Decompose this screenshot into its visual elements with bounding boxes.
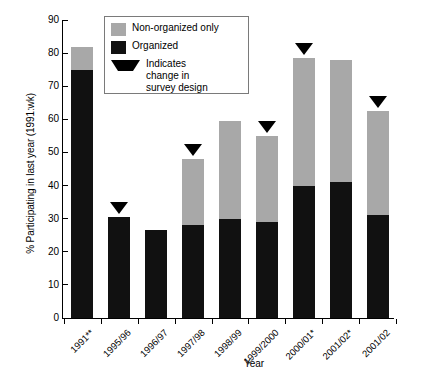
y-axis-tick: 0 [28,312,68,324]
legend-label-survey-change-line1: Indicates [146,58,208,70]
y-axis-tick-mark [63,284,68,285]
y-axis-tick-label: 90 [35,14,59,26]
y-axis-tick: 80 [28,47,68,59]
black-swatch-icon [111,41,126,54]
x-axis-tick-mark [101,319,102,324]
y-axis-tick-mark [63,185,68,186]
x-axis-tick-mark [359,319,360,324]
chart-legend: Non-organized only Organized Indicates c… [104,16,249,94]
legend-label-survey-change-line2: change in [146,70,208,82]
bar-1997/98 [182,159,204,318]
bar-segment-organized [367,215,389,318]
y-axis-tick-label: 70 [35,80,59,92]
legend-item-non-organized: Non-organized only [111,22,242,36]
survey-change-marker [258,121,276,133]
x-axis-title-text: Year [244,358,264,369]
survey-change-marker [295,43,313,55]
y-axis-tick-mark [63,119,68,120]
y-axis-tick: 40 [28,180,68,192]
bar-segment-organized [330,182,352,318]
y-axis-tick-mark [63,218,68,219]
y-axis-tick: 30 [28,213,68,225]
x-axis-tick-mark [322,319,323,324]
x-axis-tick-mark [285,319,286,324]
chart-figure: % Participating in last year (1991:wk) 0… [0,0,444,381]
y-axis-tick-label: 10 [35,279,59,291]
bar-segment-non-organized [71,47,93,70]
bar-1998/99 [219,121,241,318]
bar-1999/2000 [256,136,278,318]
bar-segment-non-organized [182,159,204,225]
bar-segment-non-organized [367,111,389,215]
y-axis-line [62,20,63,319]
survey-change-marker [184,144,202,156]
y-axis-tick-label: 30 [35,213,59,225]
y-axis-tick-label: 60 [35,113,59,125]
bar-segment-organized [293,186,315,318]
x-axis-line [62,318,394,319]
y-axis-tick: 90 [28,14,68,26]
gray-swatch-icon [111,23,126,36]
bar-segment-non-organized [330,60,352,183]
x-axis-tick-mark [212,319,213,324]
y-axis-tick-mark [63,53,68,54]
legend-label-survey-change-line3: survey design [146,82,208,94]
bar-segment-organized [182,225,204,318]
y-axis-tick: 20 [28,246,68,258]
bar-segment-organized [71,70,93,318]
survey-change-marker [369,96,387,108]
bar-2000/01* [293,58,315,318]
survey-change-marker [110,202,128,214]
bar-segment-organized [145,230,167,318]
legend-item-organized: Organized [111,40,242,54]
legend-label-organized: Organized [132,40,178,52]
y-axis-tick-mark [63,152,68,153]
legend-label-survey-change: Indicates change in survey design [146,58,208,94]
y-axis-tick-label: 80 [35,47,59,59]
y-axis-tick: 10 [28,279,68,291]
bar-segment-organized [256,222,278,318]
legend-item-survey-change: Indicates change in survey design [111,58,242,94]
x-axis-tick-mark [175,319,176,324]
bar-segment-non-organized [256,136,278,222]
down-triangle-icon [111,60,140,71]
y-axis-tick-label: 50 [35,146,59,158]
bar-segment-organized [219,219,241,318]
y-axis-tick: 60 [28,113,68,125]
bar-segment-non-organized [219,121,241,219]
bar-1991** [71,47,93,319]
x-axis-title: Year [0,358,444,369]
y-axis-tick-mark [63,251,68,252]
x-axis-tick-mark [64,319,65,324]
y-axis-tick-mark [63,86,68,87]
bar-segment-organized [108,217,130,318]
bar-1995/96 [108,217,130,318]
bar-2001/02* [330,60,352,318]
bar-2001/02 [367,111,389,318]
x-axis-tick-mark [396,319,397,324]
bar-segment-non-organized [293,58,315,185]
x-axis-tick-mark [138,319,139,324]
y-axis-tick-label: 0 [35,312,59,324]
y-axis-tick-label: 20 [35,246,59,258]
legend-label-non-organized: Non-organized only [132,22,219,34]
bar-1996/97 [145,230,167,318]
y-axis-tick-label: 40 [35,180,59,192]
y-axis-tick-mark [63,20,68,21]
y-axis-tick: 50 [28,146,68,158]
y-axis-tick: 70 [28,80,68,92]
x-axis-tick-mark [248,319,249,324]
